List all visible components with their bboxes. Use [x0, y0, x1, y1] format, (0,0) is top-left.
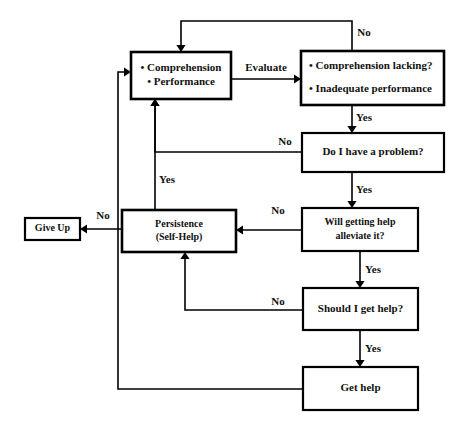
- node-label-persistence-self-help-1: (Self-Help): [156, 231, 203, 243]
- node-label-do-i-have-a-problem-0: Do I have a problem?: [322, 145, 423, 157]
- edge-outcome-yes-label: Yes: [356, 111, 373, 123]
- edge-problem-yes-label: Yes: [356, 183, 373, 195]
- node-label-comprehension-performance-1: • Performance: [147, 75, 215, 87]
- edge-should-yes-label: Yes: [365, 342, 382, 354]
- edge-persistence-no: [80, 224, 122, 233]
- edge-evaluate-label: Evaluate: [245, 61, 287, 73]
- edge-should-yes: [355, 330, 364, 367]
- edge-persistence-yes: [150, 99, 159, 210]
- flowchart-svg: • Comprehension• Performance• Comprehens…: [0, 0, 460, 442]
- node-label-should-i-get-help-0: Should I get help?: [318, 302, 403, 314]
- node-get-help[interactable]: Get help: [303, 367, 418, 410]
- node-label-will-getting-help-alleviate-it-1: alleviate it?: [335, 230, 384, 241]
- node-do-i-have-a-problem[interactable]: Do I have a problem?: [302, 133, 444, 172]
- flowchart-canvas: • Comprehension• Performance• Comprehens…: [0, 0, 460, 442]
- node-label-persistence-self-help-0: Persistence: [155, 218, 203, 229]
- edge-outcome-no-label: No: [357, 26, 371, 38]
- node-persistence-self-help[interactable]: Persistence(Self-Help): [122, 210, 236, 252]
- edge-should-no-label: No: [271, 295, 285, 307]
- node-label-comprehension-performance-0: • Comprehension: [141, 61, 222, 73]
- edge-evaluate: [231, 74, 301, 83]
- node-will-getting-help-alleviate-it[interactable]: Will getting helpalleviate it?: [302, 208, 418, 251]
- edge-outcome-no: [176, 21, 352, 52]
- node-comprehension-lacking-inadequate-performance[interactable]: • Comprehension lacking?• Inadequate per…: [301, 51, 444, 105]
- edge-alleviate-yes: [355, 251, 364, 288]
- edge-outcome-no-line: [181, 21, 352, 51]
- edge-alleviate-no-label: No: [271, 204, 285, 216]
- edge-should-no-line: [185, 259, 303, 310]
- edge-alleviate-no: [236, 225, 302, 234]
- nodes-layer: • Comprehension• Performance• Comprehens…: [25, 51, 444, 410]
- node-comprehension-performance[interactable]: • Comprehension• Performance: [131, 52, 231, 99]
- node-label-comprehension-lacking-inadequate-performance-1: • Inadequate performance: [309, 82, 432, 94]
- node-label-give-up-0: Give Up: [35, 222, 71, 233]
- node-label-will-getting-help-alleviate-it-0: Will getting help: [325, 216, 396, 227]
- edge-persistence-yes-label: Yes: [159, 173, 176, 185]
- node-label-get-help-0: Get help: [340, 381, 380, 393]
- edge-alleviate-yes-label: Yes: [365, 263, 382, 275]
- edge-persistence-no-label: No: [96, 209, 110, 221]
- node-should-i-get-help[interactable]: Should I get help?: [303, 288, 418, 330]
- node-label-comprehension-lacking-inadequate-performance-0: • Comprehension lacking?: [309, 59, 432, 71]
- node-give-up[interactable]: Give Up: [25, 218, 80, 240]
- edge-problem-no-label: No: [278, 135, 292, 147]
